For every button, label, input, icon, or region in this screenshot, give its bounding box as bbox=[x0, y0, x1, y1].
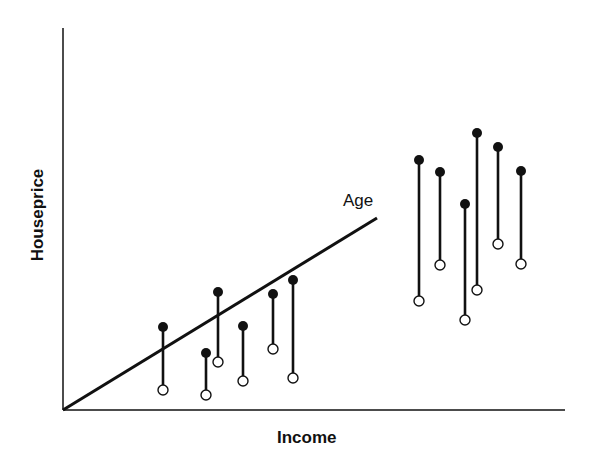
filled-marker bbox=[460, 199, 470, 209]
filled-marker bbox=[414, 155, 424, 165]
chart-canvas bbox=[0, 0, 596, 465]
data-pair bbox=[238, 321, 248, 386]
open-marker bbox=[213, 357, 223, 367]
filled-marker bbox=[472, 128, 482, 138]
x-axis-label: Income bbox=[277, 428, 337, 448]
data-pair bbox=[516, 166, 526, 269]
filled-marker bbox=[493, 142, 503, 152]
age-line-label: Age bbox=[343, 191, 373, 211]
data-pair bbox=[435, 167, 445, 270]
filled-marker bbox=[516, 166, 526, 176]
filled-marker bbox=[268, 289, 278, 299]
open-marker bbox=[201, 390, 211, 400]
filled-marker bbox=[158, 322, 168, 332]
open-marker bbox=[435, 260, 445, 270]
open-marker bbox=[493, 239, 503, 249]
data-pair bbox=[268, 289, 278, 354]
data-pair bbox=[158, 322, 168, 395]
data-pair bbox=[288, 275, 298, 383]
filled-marker bbox=[201, 348, 211, 358]
open-marker bbox=[472, 285, 482, 295]
data-pair bbox=[493, 142, 503, 249]
open-marker bbox=[238, 376, 248, 386]
open-marker bbox=[288, 373, 298, 383]
data-pair bbox=[414, 155, 424, 306]
data-pair bbox=[201, 348, 211, 400]
open-marker bbox=[414, 296, 424, 306]
y-axis-label: Houseprice bbox=[28, 169, 48, 262]
open-marker bbox=[460, 315, 470, 325]
filled-marker bbox=[213, 287, 223, 297]
filled-marker bbox=[238, 321, 248, 331]
filled-marker bbox=[435, 167, 445, 177]
data-pair bbox=[472, 128, 482, 295]
data-pairs bbox=[158, 128, 526, 400]
open-marker bbox=[268, 344, 278, 354]
filled-marker bbox=[288, 275, 298, 285]
axes bbox=[63, 28, 565, 410]
age-trend-line bbox=[63, 218, 377, 410]
open-marker bbox=[158, 385, 168, 395]
data-pair bbox=[460, 199, 470, 325]
open-marker bbox=[516, 259, 526, 269]
data-pair bbox=[213, 287, 223, 367]
